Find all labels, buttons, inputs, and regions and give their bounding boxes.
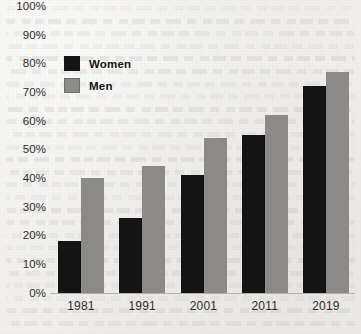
legend-item-men[interactable]: Men xyxy=(64,78,131,93)
x-axis-line xyxy=(50,293,355,295)
y-axis-tick-label: 40% xyxy=(4,172,46,184)
bar-women-1981[interactable] xyxy=(58,241,81,293)
plot-area xyxy=(50,6,355,294)
x-axis-tick-labels: 19811991200120112019 xyxy=(50,299,355,323)
bar-men-1991[interactable] xyxy=(142,166,165,292)
y-axis-tick-label: 20% xyxy=(4,229,46,241)
bar-groups xyxy=(50,6,355,293)
y-axis-tick-label: 50% xyxy=(4,143,46,155)
bar-women-2011[interactable] xyxy=(242,135,265,293)
bar-group-2011 xyxy=(242,6,288,293)
y-axis-tick-label: 10% xyxy=(4,258,46,270)
bar-group-2001 xyxy=(181,6,227,293)
legend-label: Women xyxy=(89,58,131,70)
bar-men-2011[interactable] xyxy=(265,115,288,293)
bar-women-2019[interactable] xyxy=(303,86,326,292)
y-axis-tick-label: 60% xyxy=(4,115,46,127)
y-axis-tick-label: 100% xyxy=(4,0,46,12)
bar-women-2001[interactable] xyxy=(181,175,204,292)
x-axis-tick-label-1981: 1981 xyxy=(58,299,104,323)
y-axis-tick-label: 30% xyxy=(4,201,46,213)
legend-swatch-women-icon xyxy=(64,56,80,71)
y-axis-tick-label: 80% xyxy=(4,57,46,69)
bar-men-1981[interactable] xyxy=(81,178,104,293)
y-axis-tick-label: 70% xyxy=(4,86,46,98)
y-axis-tick-label: 90% xyxy=(4,29,46,41)
bar-men-2001[interactable] xyxy=(204,138,227,293)
y-axis-tick-labels: 100%90%80%70%60%50%40%30%20%10%0% xyxy=(0,0,46,334)
x-axis-tick-label-2019: 2019 xyxy=(303,299,349,323)
legend-swatch-men-icon xyxy=(64,78,80,93)
bar-group-2019 xyxy=(303,6,349,293)
legend-item-women[interactable]: Women xyxy=(64,56,131,71)
grouped-bar-chart: 100%90%80%70%60%50%40%30%20%10%0% 198119… xyxy=(0,0,361,334)
bar-group-1981 xyxy=(58,6,104,293)
chart-legend: WomenMen xyxy=(64,56,131,100)
y-axis-tick-label: 0% xyxy=(4,287,46,299)
bar-women-1991[interactable] xyxy=(119,218,142,292)
bar-men-2019[interactable] xyxy=(326,72,349,293)
x-axis-tick-label-2011: 2011 xyxy=(242,299,288,323)
scanned-page: 100%90%80%70%60%50%40%30%20%10%0% 198119… xyxy=(0,0,361,334)
x-axis-tick-label-1991: 1991 xyxy=(119,299,165,323)
bar-group-1991 xyxy=(119,6,165,293)
x-axis-tick-label-2001: 2001 xyxy=(181,299,227,323)
legend-label: Men xyxy=(89,80,113,92)
